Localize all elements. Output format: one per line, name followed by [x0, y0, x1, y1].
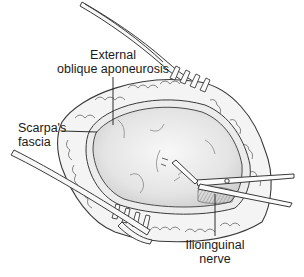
label-ilioinguinal-nerve: Ilioinguinal nerve	[175, 238, 255, 266]
label-scarpas-fascia-line1: Scarpa's	[18, 121, 66, 135]
label-external-oblique-line1: External	[48, 48, 178, 62]
label-ilioinguinal-nerve-line1: Ilioinguinal	[175, 238, 255, 252]
label-external-oblique: External oblique aponeurosis	[48, 48, 178, 76]
label-scarpas-fascia: Scarpa's fascia	[18, 121, 66, 149]
label-external-oblique-line2: oblique aponeurosis	[48, 62, 178, 76]
label-ilioinguinal-nerve-line2: nerve	[175, 252, 255, 266]
label-scarpas-fascia-line2: fascia	[18, 135, 66, 149]
